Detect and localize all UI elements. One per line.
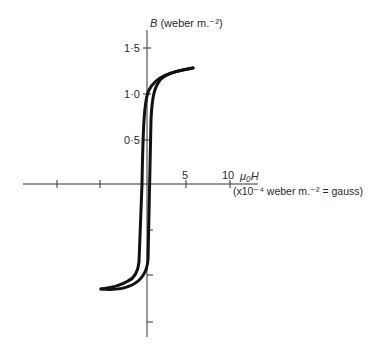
y-tick-label-0-5: 0·5 [110, 135, 140, 146]
x-axis-units: (x10⁻⁴ weber m.⁻² = gauss) [233, 186, 363, 197]
y-axis-units: (weber m.⁻²) [160, 17, 222, 29]
y-tick-label-1-5: 1·5 [110, 43, 140, 54]
x-tick-label-10: 10 [222, 170, 234, 181]
y-axis-title: B (weber m.⁻²) [150, 18, 223, 29]
y-tick-label-1-0: 1·0 [110, 89, 140, 100]
y-axis-symbol: B [150, 17, 157, 29]
x-axis-symbol: μ₀H [240, 171, 259, 182]
x-tick-label-5: 5 [182, 170, 188, 181]
